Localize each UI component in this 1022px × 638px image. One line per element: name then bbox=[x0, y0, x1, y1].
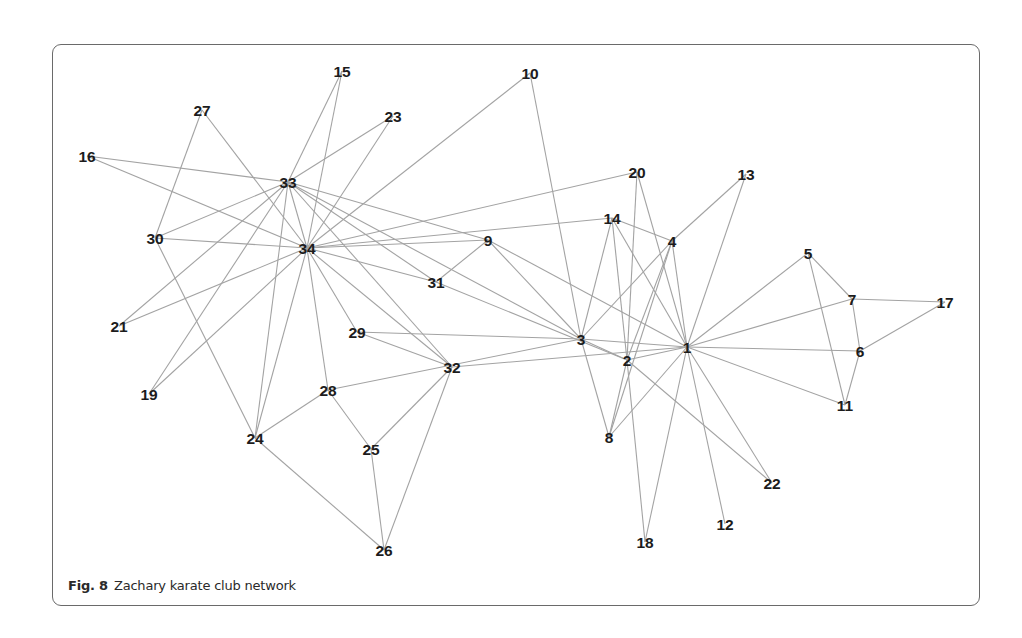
edge-34-30 bbox=[155, 238, 307, 248]
node-13: 13 bbox=[737, 166, 755, 183]
edge-18-2 bbox=[627, 360, 645, 542]
node-9: 9 bbox=[484, 232, 493, 249]
edge-22-1 bbox=[687, 347, 772, 483]
edge-9-3 bbox=[488, 240, 581, 339]
edge-4-2 bbox=[627, 241, 672, 360]
node-5: 5 bbox=[804, 245, 813, 262]
node-20: 20 bbox=[628, 164, 645, 181]
edge-18-1 bbox=[645, 347, 687, 542]
node-3: 3 bbox=[577, 331, 586, 348]
node-21: 21 bbox=[110, 318, 128, 335]
edge-30-27 bbox=[155, 110, 202, 238]
edge-5-1 bbox=[687, 253, 808, 347]
edge-12-1 bbox=[687, 347, 725, 524]
figure-caption: Fig. 8Zachary karate club network bbox=[68, 578, 296, 593]
node-33: 33 bbox=[279, 174, 297, 191]
edge-33-19 bbox=[149, 182, 288, 394]
node-34: 34 bbox=[298, 240, 316, 257]
edge-34-29 bbox=[307, 248, 357, 332]
node-14: 14 bbox=[603, 210, 621, 227]
node-8: 8 bbox=[605, 429, 614, 446]
edge-32-1 bbox=[452, 347, 687, 367]
edge-20-2 bbox=[627, 172, 637, 360]
node-24: 24 bbox=[246, 430, 264, 447]
node-30: 30 bbox=[146, 230, 163, 247]
node-10: 10 bbox=[521, 65, 538, 82]
node-11: 11 bbox=[837, 397, 854, 414]
edge-17-7 bbox=[852, 299, 945, 302]
edge-34-28 bbox=[307, 248, 328, 390]
figure-caption-text: Zachary karate club network bbox=[114, 578, 296, 593]
edge-20-1 bbox=[637, 172, 687, 347]
node-28: 28 bbox=[319, 382, 337, 399]
edge-33-21 bbox=[119, 182, 288, 326]
node-19: 19 bbox=[140, 386, 158, 403]
edge-6-1 bbox=[687, 347, 860, 351]
node-23: 23 bbox=[384, 108, 402, 125]
node-12: 12 bbox=[716, 516, 733, 533]
edge-34-19 bbox=[149, 248, 307, 394]
edge-34-10 bbox=[307, 73, 530, 248]
network-graph: 1234567891011121314151617181920212223242… bbox=[0, 0, 1022, 638]
edge-22-2 bbox=[627, 360, 772, 483]
node-7: 7 bbox=[848, 291, 857, 308]
edge-7-5 bbox=[808, 253, 852, 299]
edge-33-30 bbox=[155, 182, 288, 238]
edge-7-1 bbox=[687, 299, 852, 347]
edge-4-3 bbox=[581, 241, 672, 339]
edge-32-26 bbox=[384, 367, 452, 550]
node-22: 22 bbox=[763, 475, 780, 492]
edge-29-3 bbox=[357, 332, 581, 339]
edge-8-4 bbox=[609, 241, 672, 437]
node-1: 1 bbox=[683, 339, 692, 356]
edge-32-29 bbox=[357, 332, 452, 367]
node-29: 29 bbox=[348, 324, 366, 341]
edge-17-6 bbox=[860, 302, 945, 351]
edges-layer bbox=[87, 71, 945, 550]
edge-33-3 bbox=[288, 182, 581, 339]
node-31: 31 bbox=[427, 274, 445, 291]
edge-34-14 bbox=[307, 218, 612, 248]
figure-number: Fig. 8 bbox=[68, 578, 108, 593]
edge-34-21 bbox=[119, 248, 307, 326]
edge-9-1 bbox=[488, 240, 687, 347]
edge-13-1 bbox=[687, 174, 746, 347]
node-32: 32 bbox=[443, 359, 460, 376]
edge-26-25 bbox=[371, 449, 384, 550]
node-18: 18 bbox=[636, 534, 654, 551]
node-25: 25 bbox=[362, 441, 380, 458]
node-2: 2 bbox=[623, 352, 632, 369]
edge-30-24 bbox=[155, 238, 255, 438]
node-4: 4 bbox=[668, 233, 677, 250]
node-26: 26 bbox=[375, 542, 393, 559]
node-17: 17 bbox=[936, 294, 953, 311]
node-15: 15 bbox=[333, 63, 351, 80]
node-16: 16 bbox=[78, 148, 96, 165]
edge-11-5 bbox=[808, 253, 845, 405]
edge-34-32 bbox=[307, 248, 452, 367]
edge-14-3 bbox=[581, 218, 612, 339]
edge-11-1 bbox=[687, 347, 845, 405]
node-6: 6 bbox=[856, 343, 865, 360]
edge-8-1 bbox=[609, 347, 687, 437]
edge-34-20 bbox=[307, 172, 637, 248]
edge-14-4 bbox=[612, 218, 672, 241]
node-27: 27 bbox=[193, 102, 210, 119]
edge-33-24 bbox=[255, 182, 288, 438]
edge-10-3 bbox=[530, 73, 581, 339]
edge-4-1 bbox=[672, 241, 687, 347]
edge-8-2 bbox=[609, 360, 627, 437]
